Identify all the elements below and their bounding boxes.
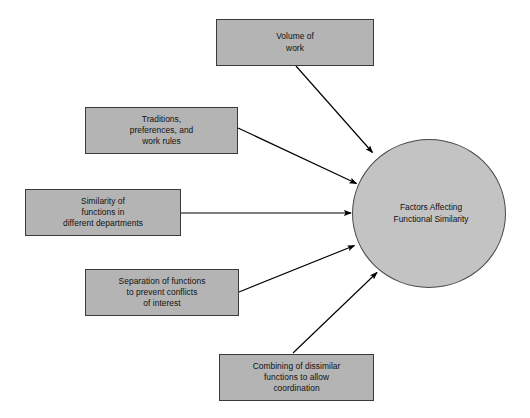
factor-box-separation-of-functions[interactable]: Separation of functions to prevent confl… <box>85 269 239 316</box>
center-node-factors-affecting-functional-similarity[interactable]: Factors Affecting Functional Similarity <box>352 139 506 288</box>
influence-diagram-canvas: Volume of work Traditions, preferences, … <box>0 0 530 418</box>
factor-label-volume-of-work: Volume of work <box>273 31 317 54</box>
factor-label-similarity-of-functions: Similarity of functions in different dep… <box>60 196 146 230</box>
center-node-label: Factors Affecting Functional Similarity <box>390 202 469 225</box>
factor-box-similarity-of-functions[interactable]: Similarity of functions in different dep… <box>25 189 181 236</box>
arrow-combining-to-center <box>293 273 377 354</box>
factor-box-traditions-preferences-work-rules[interactable]: Traditions, preferences, and work rules <box>85 107 238 154</box>
arrow-separation-to-center <box>239 246 355 293</box>
factor-box-volume-of-work[interactable]: Volume of work <box>216 19 374 66</box>
factor-label-traditions-preferences-work-rules: Traditions, preferences, and work rules <box>127 114 197 148</box>
factor-label-combining-of-dissimilar-functions: Combining of dissimilar functions to all… <box>250 361 344 395</box>
arrow-traditions-to-center <box>238 128 357 184</box>
factor-box-combining-of-dissimilar-functions[interactable]: Combining of dissimilar functions to all… <box>219 354 374 401</box>
factor-label-separation-of-functions: Separation of functions to prevent confl… <box>116 276 209 310</box>
arrow-volume-of-work-to-center <box>296 66 373 153</box>
